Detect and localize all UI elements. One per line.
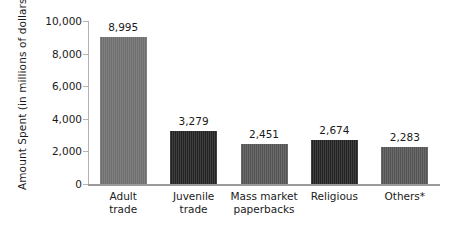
y-axis-tick-mark	[83, 54, 88, 55]
bar-group: 3,279	[170, 21, 217, 184]
page-edge-text-sliver	[0, 229, 463, 235]
x-axis-baseline	[88, 184, 440, 186]
bar-group: 2,283	[381, 21, 428, 184]
y-axis-title: Amount Spent (in millions of dollars)	[14, 0, 30, 190]
bar	[311, 140, 358, 184]
bar-value-label: 8,995	[76, 22, 171, 33]
y-axis-tick-label: 2,000	[36, 146, 82, 156]
y-axis-tick-mark	[83, 21, 88, 22]
y-axis-tick-mark	[83, 151, 88, 152]
category-label-line: Religious	[299, 190, 369, 203]
y-axis-tick-label: 4,000	[36, 114, 82, 124]
bar	[241, 144, 288, 184]
category-label: Religious	[299, 190, 369, 203]
y-axis-tick-label: 8,000	[36, 49, 82, 59]
category-label: Adulttrade	[88, 190, 158, 215]
plot-area: 8,9953,2792,4512,6742,283	[88, 21, 440, 184]
y-axis-tick-label: 6,000	[36, 81, 82, 91]
bar	[381, 147, 428, 184]
bar	[170, 131, 217, 184]
category-label-line: trade	[88, 203, 158, 216]
category-label-line: Juvenile	[158, 190, 228, 203]
bar-group: 2,451	[241, 21, 288, 184]
bar-group: 2,674	[311, 21, 358, 184]
y-axis-tick-mark	[83, 119, 88, 120]
x-axis-category-labels: AdulttradeJuveniletradeMass marketpaperb…	[88, 190, 440, 230]
bar-chart: Amount Spent (in millions of dollars) 10…	[0, 0, 463, 235]
y-axis-tick-labels: 10,0008,0006,0004,0002,0000	[30, 0, 82, 235]
y-axis-tick-mark	[83, 86, 88, 87]
category-label-line: Others*	[370, 190, 440, 203]
category-label-line: Mass market	[229, 190, 299, 203]
category-label: Mass marketpaperbacks	[229, 190, 299, 215]
category-label-line: paperbacks	[229, 203, 299, 216]
bar	[100, 37, 147, 184]
y-axis-tick-mark	[83, 184, 88, 185]
category-label-line: Adult	[88, 190, 158, 203]
bar-group: 8,995	[100, 21, 147, 184]
y-axis-tick-label: 0	[36, 179, 82, 189]
bar-value-label: 3,279	[146, 116, 241, 127]
category-label: Others*	[370, 190, 440, 203]
category-label: Juveniletrade	[158, 190, 228, 215]
bar-value-label: 2,283	[357, 132, 452, 143]
category-label-line: trade	[158, 203, 228, 216]
